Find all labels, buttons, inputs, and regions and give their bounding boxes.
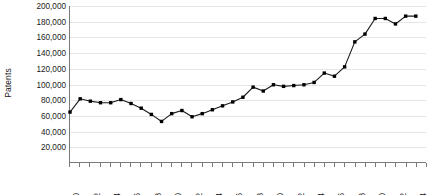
data-point-marker: 1994: 102,000 <box>312 81 315 84</box>
data-point-marker: 2000: 184,000 <box>373 17 376 20</box>
x-axis-tick-labels: 1970197219741976197819801982198419861988… <box>69 168 426 195</box>
x-axis-tick-label: 1978 <box>154 193 163 195</box>
x-axis-tick <box>304 163 305 167</box>
x-axis-tick <box>89 163 90 167</box>
y-axis-tick-label: 120,000 <box>36 64 66 73</box>
x-axis-tick-label: 1982 <box>195 193 204 195</box>
x-axis-tick-label: 1980 <box>174 193 183 195</box>
plot-area: 1970: 64,0001971: 81,0001972: 78,0001973… <box>69 6 426 163</box>
x-axis-tick-label: 1984 <box>215 193 224 195</box>
y-axis-tick-label: 180,000 <box>36 17 66 26</box>
data-point-marker: 2004: 187,000 <box>414 14 417 17</box>
x-axis-tick-label: 1986 <box>235 193 244 195</box>
x-axis-tick <box>334 163 335 167</box>
y-axis-tick-label: 80,000 <box>41 96 66 105</box>
x-axis-tick <box>120 163 121 167</box>
y-axis-tick-label: 20,000 <box>41 143 66 152</box>
y-axis-tick-label: 60,000 <box>41 111 66 120</box>
y-axis-tick-label: 200,000 <box>36 2 66 11</box>
data-point-marker: 1995: 114,000 <box>323 71 326 74</box>
x-axis-tick <box>181 163 182 167</box>
x-axis-tick-label: 2000 <box>378 193 387 195</box>
x-axis-tick <box>161 163 162 167</box>
x-axis-tick <box>140 163 141 167</box>
data-point-marker: 1981: 66,000 <box>180 109 183 112</box>
y-axis-tick-label: 100,000 <box>36 80 66 89</box>
x-axis-tick <box>406 163 407 167</box>
x-axis-tick-label: 2004 <box>419 193 428 195</box>
data-point-marker: 1977: 69,000 <box>140 106 143 109</box>
x-axis-tick <box>151 163 152 167</box>
x-axis-tick <box>232 163 233 167</box>
x-axis-tick <box>293 163 294 167</box>
x-axis-tick <box>344 163 345 167</box>
x-axis-tick-label: 1972 <box>93 193 102 195</box>
data-point-marker: 1999: 164,000 <box>363 32 366 35</box>
data-point-marker: 1983: 62,000 <box>201 112 204 115</box>
y-axis-tick-label: 40,000 <box>41 127 66 136</box>
x-axis-tick <box>426 163 427 167</box>
data-point-marker: 1989: 91,000 <box>262 89 265 92</box>
x-axis-tick-label: 1994 <box>317 193 326 195</box>
data-point-marker: 1982: 58,000 <box>190 115 193 118</box>
x-axis-tick <box>395 163 396 167</box>
data-point-marker: 1971: 81,000 <box>78 97 81 100</box>
x-axis-tick <box>273 163 274 167</box>
series-markers: 1970: 64,0001971: 81,0001972: 78,0001973… <box>68 14 417 123</box>
data-point-marker: 1988: 96,000 <box>251 85 254 88</box>
x-axis-tick-label: 1992 <box>297 193 306 195</box>
y-axis-tick-label: 160,000 <box>36 33 66 42</box>
x-axis-tick-label: 1998 <box>358 193 367 195</box>
data-point-marker: 1987: 83,000 <box>241 96 244 99</box>
x-axis-tick-label: 1990 <box>276 193 285 195</box>
x-axis-tick <box>283 163 284 167</box>
data-point-marker: 1974: 76,000 <box>109 101 112 104</box>
series-layer: 1970: 64,0001971: 81,0001972: 78,0001973… <box>70 6 426 162</box>
x-axis-tick-label: 1988 <box>256 193 265 195</box>
data-point-marker: 1990: 99,000 <box>272 83 275 86</box>
x-axis-tick <box>375 163 376 167</box>
data-point-marker: 2003: 187,000 <box>404 14 407 17</box>
x-axis-tick-label: 2002 <box>399 193 408 195</box>
x-axis-tick <box>355 163 356 167</box>
data-point-marker: 1998: 154,000 <box>353 40 356 43</box>
data-point-marker: 2001: 184,000 <box>384 17 387 20</box>
data-point-marker: 1986: 77,000 <box>231 100 234 103</box>
x-axis-tick <box>212 163 213 167</box>
x-axis-tick <box>171 163 172 167</box>
x-axis-tick <box>314 163 315 167</box>
data-point-marker: 1978: 61,000 <box>150 113 153 116</box>
data-point-marker: 1985: 72,000 <box>221 104 224 107</box>
data-point-marker: 1976: 75,000 <box>129 102 132 105</box>
data-point-marker: 1973: 76,000 <box>99 101 102 104</box>
x-axis-tick <box>69 163 70 167</box>
y-axis-title-label: Patents <box>3 68 13 98</box>
data-point-marker: 2002: 177,000 <box>394 22 397 25</box>
x-axis-tick <box>365 163 366 167</box>
data-point-marker: 1992: 98,000 <box>292 84 295 87</box>
x-axis-tick-label: 1974 <box>113 193 122 195</box>
x-axis-tick <box>253 163 254 167</box>
y-axis-tick-labels: 20,00040,00060,00080,000100,000120,00014… <box>14 0 68 165</box>
x-axis-tick <box>130 163 131 167</box>
x-axis-tick <box>191 163 192 167</box>
x-axis-tick <box>385 163 386 167</box>
x-axis-tick-label: 1996 <box>337 193 346 195</box>
data-point-marker: 1975: 80,000 <box>119 98 122 101</box>
x-axis-tick <box>222 163 223 167</box>
x-axis-tick <box>202 163 203 167</box>
data-point-marker: 1984: 67,000 <box>211 108 214 111</box>
y-axis-tick-label: 140,000 <box>36 49 66 58</box>
data-point-marker: 1997: 122,000 <box>343 65 346 68</box>
x-axis-tick-label: 1976 <box>133 193 142 195</box>
data-point-marker: 1970: 64,000 <box>68 110 71 113</box>
data-point-marker: 1993: 99,000 <box>302 83 305 86</box>
x-axis-tick-label: 1970 <box>72 193 81 195</box>
data-point-marker: 1996: 110,000 <box>333 75 336 78</box>
x-axis-tick <box>324 163 325 167</box>
x-axis-tick <box>100 163 101 167</box>
x-axis-tick <box>416 163 417 167</box>
data-point-marker: 1991: 97,000 <box>282 85 285 88</box>
x-axis-tick <box>242 163 243 167</box>
data-point-marker: 1979: 52,000 <box>160 120 163 123</box>
